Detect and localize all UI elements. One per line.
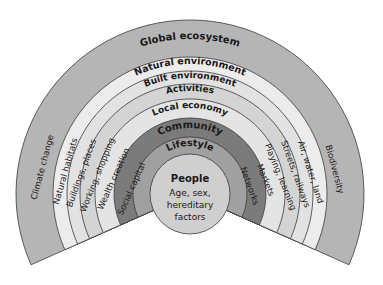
people-line-2: hereditary bbox=[167, 200, 214, 210]
people-line-1: Age, sex, bbox=[169, 188, 210, 198]
people-line-3: factors bbox=[174, 212, 205, 222]
health-map-diagram: Global ecosystem Natural environment Bui… bbox=[0, 0, 383, 285]
people-title: People bbox=[171, 173, 210, 184]
